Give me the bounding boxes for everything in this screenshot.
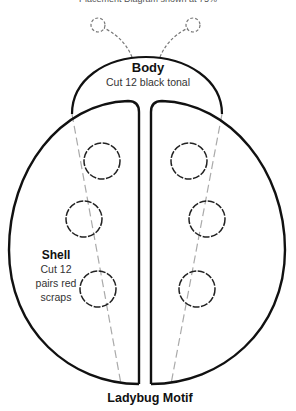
shell-title: Shell	[26, 248, 86, 262]
left-spot-1	[84, 143, 120, 179]
diagram-caption: Ladybug Motif	[70, 391, 230, 405]
right-spot-1	[171, 143, 207, 179]
left-antenna-tip	[91, 18, 105, 32]
right-antenna-tip	[186, 18, 200, 32]
shell-instruction-line: Cut 12	[26, 262, 86, 276]
right-spot-3	[179, 271, 215, 307]
shell-instruction: Cut 12 pairs red scraps	[26, 262, 86, 304]
body-title: Body	[96, 60, 200, 75]
right-antenna	[160, 28, 188, 57]
left-spot-2	[66, 201, 102, 237]
right-shell-outline	[151, 101, 285, 384]
left-antenna	[104, 28, 132, 57]
shell-instruction-line: scraps	[26, 290, 86, 304]
right-guide-line	[171, 114, 222, 384]
shell-instruction-line: pairs red	[26, 276, 86, 290]
body-instruction: Cut 12 black tonal	[76, 76, 220, 88]
left-shell-outline	[9, 101, 139, 384]
right-spot-2	[189, 201, 225, 237]
